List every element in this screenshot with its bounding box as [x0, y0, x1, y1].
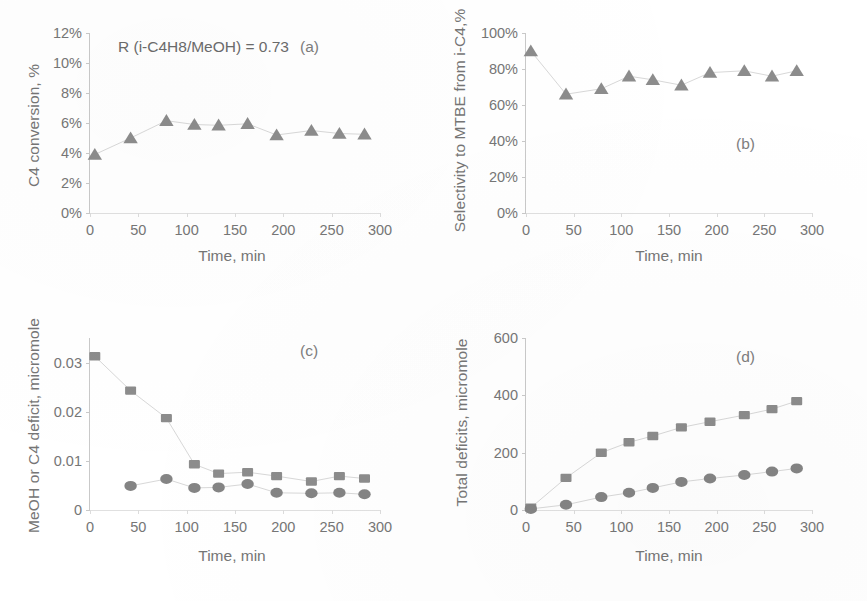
data-point: [304, 124, 318, 136]
data-point: [595, 492, 607, 502]
data-point: [271, 472, 282, 480]
data-point: [213, 469, 224, 477]
data-point: [305, 488, 317, 498]
panel-b-ylabel: Selectivity to MTBE from i-C4,%: [459, 120, 460, 121]
y-tick-label: 100%: [460, 26, 518, 41]
y-tick-label: 0: [460, 503, 518, 518]
panel-b-xlabel: Time, min: [559, 247, 779, 265]
data-point: [791, 397, 802, 405]
y-tick-label: 0.02: [24, 405, 82, 420]
y-tick-label: 60%: [460, 98, 518, 113]
series-layer: [90, 338, 400, 530]
data-point: [270, 488, 282, 498]
series-line-selectivity-to-mtbe: [531, 51, 797, 94]
data-point: [212, 482, 224, 492]
data-point: [623, 488, 635, 498]
data-point: [561, 474, 572, 482]
figure-root: C4 conversion, % R (i-C4H8/MeOH) = 0.73 …: [0, 0, 867, 601]
data-point: [647, 432, 658, 440]
y-tick-label: 0.01: [24, 454, 82, 469]
y-tick-label: 400: [460, 388, 518, 403]
panel-d-plot: [526, 338, 812, 510]
data-point: [790, 64, 804, 76]
data-point: [358, 489, 370, 499]
data-point: [306, 477, 317, 485]
series-line-meoh-deficit: [95, 356, 365, 481]
data-point: [334, 472, 345, 480]
data-point: [188, 483, 200, 493]
y-tick-label: 0%: [460, 206, 518, 221]
data-point: [89, 352, 100, 360]
data-point: [524, 44, 538, 56]
panel-d-ylabel: Total deficits, micromole: [461, 422, 462, 423]
panel-d-xlabel: Time, min: [559, 547, 779, 565]
y-tick-label: 0: [24, 503, 82, 518]
data-point: [160, 474, 172, 484]
y-tick-label: 200: [460, 446, 518, 461]
data-point: [240, 117, 254, 129]
series-line-c4-conversion: [95, 121, 365, 155]
y-tick-label: 10%: [24, 56, 82, 71]
y-tick-label: 0%: [24, 206, 82, 221]
data-point: [596, 449, 607, 457]
data-point: [125, 386, 136, 394]
panel-c-plot: [90, 338, 380, 510]
y-tick-label: 12%: [24, 26, 82, 41]
data-point: [560, 500, 572, 510]
data-point: [242, 468, 253, 476]
data-point: [124, 481, 136, 491]
data-point: [675, 477, 687, 487]
data-point: [704, 474, 716, 484]
y-tick-label: 20%: [460, 170, 518, 185]
x-tick-label: 300: [782, 223, 842, 238]
x-tick-label: 300: [350, 223, 410, 238]
data-point: [737, 64, 751, 76]
panel-c-ylabel: MeOH or C4 deficit, micromole: [33, 425, 34, 426]
panel-b: Selectivity to MTBE from i-C4,% (b) Time…: [434, 0, 867, 300]
data-point: [739, 411, 750, 419]
y-tick-label: 8%: [24, 86, 82, 101]
panel-a-plot: [90, 33, 380, 213]
y-tick-label: 600: [460, 331, 518, 346]
series-layer: [526, 33, 832, 233]
data-point: [211, 119, 225, 131]
data-point: [123, 131, 137, 143]
panel-c-xlabel: Time, min: [122, 547, 342, 565]
data-point: [738, 470, 750, 480]
series-layer: [90, 33, 400, 233]
panel-c: MeOH or C4 deficit, micromole (c) Time, …: [0, 300, 434, 601]
data-point: [357, 128, 371, 140]
data-point: [622, 70, 636, 82]
panel-d: Total deficits, micromole (d) Time, min …: [434, 300, 867, 601]
data-point: [161, 414, 172, 422]
y-tick-label: 0.03: [24, 356, 82, 371]
data-point: [159, 114, 173, 126]
data-point: [359, 474, 370, 482]
x-tick-label: 300: [350, 520, 410, 535]
data-point: [647, 483, 659, 493]
data-point: [766, 467, 778, 477]
y-tick-label: 80%: [460, 62, 518, 77]
series-layer: [526, 338, 832, 530]
panel-a-xlabel: Time, min: [122, 247, 342, 265]
y-tick-label: 40%: [460, 134, 518, 149]
panel-b-plot: [526, 33, 812, 213]
panel-a: C4 conversion, % R (i-C4H8/MeOH) = 0.73 …: [0, 0, 434, 300]
data-point: [333, 488, 345, 498]
data-point: [624, 438, 635, 446]
data-point: [791, 463, 803, 473]
y-tick-label: 6%: [24, 116, 82, 131]
data-point: [525, 504, 537, 514]
data-point: [88, 148, 102, 160]
data-point: [241, 479, 253, 489]
series-line-total-meoh-deficit: [531, 401, 797, 508]
x-tick-label: 300: [782, 520, 842, 535]
y-tick-label: 4%: [24, 146, 82, 161]
data-point: [594, 82, 608, 94]
data-point: [767, 405, 778, 413]
data-point: [676, 423, 687, 431]
data-point: [189, 460, 200, 468]
data-point: [705, 418, 716, 426]
y-tick-label: 2%: [24, 176, 82, 191]
